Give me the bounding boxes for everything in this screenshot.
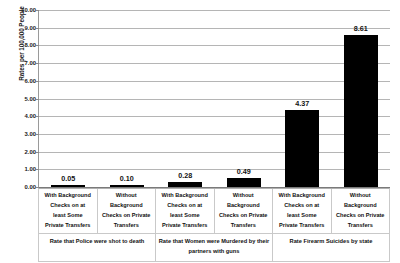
bar-value-label: 0.05: [61, 174, 75, 183]
category-label-line: Without: [333, 191, 389, 201]
bar-value-label: 4.37: [295, 99, 309, 108]
bar-slot: 4.37: [273, 10, 332, 187]
category-label-line: Checks on at: [40, 201, 96, 211]
category-label-line: least Some: [40, 211, 96, 221]
bar-chart: Rates per 100,000 People 10.009.008.007.…: [0, 0, 400, 263]
category-label-line: Checks on Private: [99, 211, 155, 221]
category-label-line: Without: [216, 191, 272, 201]
category-label-cell: WithoutBackgroundChecks on PrivateTransf…: [98, 189, 157, 233]
bar-slot: 0.49: [215, 10, 274, 187]
category-label-line: Transfers: [99, 221, 155, 231]
category-label-line: Checks on at: [157, 201, 213, 211]
category-label-line: Checks on Private: [216, 211, 272, 221]
bar: [285, 110, 319, 187]
group-label-cell: Rate that Women were Murdered by their p…: [156, 234, 273, 261]
category-label-cell: WithoutBackgroundChecks on PrivateTransf…: [215, 189, 274, 233]
bar-slot: 0.10: [98, 10, 157, 187]
bar: [168, 182, 202, 187]
category-label-line: With Background: [40, 191, 96, 201]
category-label-line: Background: [333, 201, 389, 211]
category-label-line: least Some: [274, 211, 330, 221]
bar-slot: 8.61: [332, 10, 391, 187]
bar-value-label: 0.28: [178, 171, 192, 180]
y-axis-tick-label: 1.00: [6, 166, 36, 172]
y-axis-tick-label: 10.00: [6, 7, 36, 13]
category-label-line: Private Transfers: [274, 221, 330, 231]
group-label-cell: Rate Firearm Suicides by state: [273, 234, 389, 261]
bar: [110, 185, 144, 187]
bar: [51, 185, 85, 187]
category-label-line: Transfers: [333, 221, 389, 231]
bar-value-label: 8.61: [354, 24, 368, 33]
y-axis-tick-labels: 10.009.008.007.006.005.004.003.002.001.0…: [6, 0, 36, 263]
y-axis-tick-label: 0.00: [6, 184, 36, 190]
category-label-line: With Background: [157, 191, 213, 201]
y-axis-tick-label: 7.00: [6, 60, 36, 66]
bar-value-label: 0.10: [120, 174, 134, 183]
y-axis-tick-label: 2.00: [6, 149, 36, 155]
y-axis-tick-label: 6.00: [6, 78, 36, 84]
category-label-line: Checks on Private: [333, 211, 389, 221]
category-label-cell: With BackgroundChecks on atleast SomePri…: [39, 189, 98, 233]
category-label-row: With BackgroundChecks on atleast SomePri…: [38, 188, 390, 233]
group-label-cell: Rate that Police were shot to death: [39, 234, 156, 261]
y-axis-tick-label: 3.00: [6, 131, 36, 137]
category-label-line: Without: [99, 191, 155, 201]
group-label-row: Rate that Police were shot to deathRate …: [38, 233, 390, 262]
category-label-line: Background: [99, 201, 155, 211]
category-label-line: With Background: [274, 191, 330, 201]
y-axis-tick-label: 5.00: [6, 96, 36, 102]
y-axis-tick-label: 9.00: [6, 25, 36, 31]
category-label-line: Private Transfers: [157, 221, 213, 231]
category-label-line: Private Transfers: [40, 221, 96, 231]
bar: [227, 178, 261, 187]
category-label-line: Checks on at: [274, 201, 330, 211]
bars-layer: 0.050.100.280.494.378.61: [39, 10, 390, 187]
category-label-cell: With BackgroundChecks on atleast SomePri…: [156, 189, 215, 233]
category-label-cell: WithoutBackgroundChecks on PrivateTransf…: [332, 189, 390, 233]
bar-slot: 0.28: [156, 10, 215, 187]
plot-area: 0.050.100.280.494.378.61: [38, 10, 390, 187]
category-label-line: least Some: [157, 211, 213, 221]
bar-value-label: 0.49: [237, 167, 251, 176]
category-label-line: Transfers: [216, 221, 272, 231]
category-label-cell: With BackgroundChecks on atleast SomePri…: [273, 189, 332, 233]
y-axis-tick-label: 4.00: [6, 113, 36, 119]
bar: [344, 35, 378, 187]
bar-slot: 0.05: [39, 10, 98, 187]
y-axis-tick-label: 8.00: [6, 42, 36, 48]
category-label-line: Background: [216, 201, 272, 211]
